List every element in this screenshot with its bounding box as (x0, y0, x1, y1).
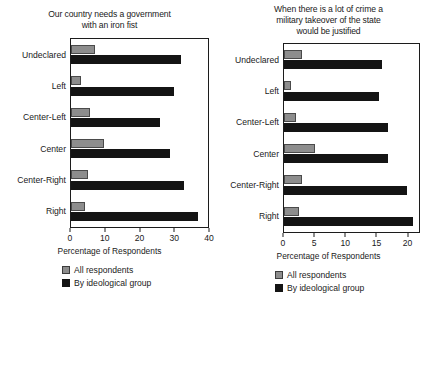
x-axis-tick (70, 228, 71, 232)
bar-ideological-group (284, 92, 379, 101)
bar-all-respondents (284, 144, 315, 153)
x-axis-tick-label: 15 (372, 238, 382, 248)
category-label-undeclared: Undeclared (235, 55, 279, 65)
category-label-left: Left (265, 86, 279, 96)
bar-all-respondents (284, 81, 291, 90)
chart-title-right-line3: would be justified (233, 26, 424, 37)
chart-panel-right: When there is a lot of crime a military … (219, 0, 438, 365)
bar-all-respondents (284, 175, 302, 184)
bar-row: Left (71, 70, 208, 101)
plot-wrapper-right: UndeclaredLeftCenter-LeftCenterCenter-Ri… (283, 43, 420, 250)
bar-rows-left: UndeclaredLeftCenter-LeftCenterCenter-Ri… (71, 39, 208, 227)
chart-title-left-line1: Our country needs a government (14, 9, 205, 20)
bar-row: Center-Right (71, 164, 208, 195)
legend-item-ideological-group-left: By ideological group (62, 278, 151, 288)
category-label-right: Right (46, 206, 66, 216)
x-axis-tick-label: 0 (281, 238, 286, 248)
legend-left: All respondents By ideological group (0, 265, 219, 288)
chart-title-right: When there is a lot of crime a military … (219, 4, 438, 37)
x-axis-tick-label: 5 (312, 238, 317, 248)
legend-item-ideological-group-right: By ideological group (275, 283, 364, 293)
chart-panel-left: Our country needs a government with an i… (0, 0, 219, 365)
plot-area-left: UndeclaredLeftCenter-LeftCenterCenter-Ri… (70, 38, 209, 228)
bar-all-respondents (71, 76, 81, 85)
legend-swatch-all-respondents-icon (275, 271, 283, 279)
x-axis-tick (104, 228, 105, 232)
bar-ideological-group (284, 60, 382, 69)
x-axis-tick-label: 20 (135, 233, 145, 243)
bar-ideological-group (284, 217, 413, 226)
bar-all-respondents (71, 139, 104, 148)
plot-wrapper-left: UndeclaredLeftCenter-LeftCenterCenter-Ri… (70, 38, 209, 245)
bar-ideological-group (71, 149, 170, 158)
legend-label-ideological-group: By ideological group (287, 283, 364, 293)
chart-figure: Our country needs a government with an i… (0, 0, 438, 365)
bar-row: Right (71, 196, 208, 227)
category-label-right: Right (259, 211, 279, 221)
bar-ideological-group (71, 55, 181, 64)
x-axis-tick-label: 0 (68, 233, 73, 243)
legend-item-all-respondents-right: All respondents (275, 270, 346, 280)
x-axis-tick-label: 10 (100, 233, 110, 243)
bar-ideological-group (71, 87, 174, 96)
x-axis-tick (283, 233, 284, 237)
bar-row: Center-Right (284, 169, 419, 200)
bar-all-respondents (71, 45, 95, 54)
bar-row: Center-Left (71, 102, 208, 133)
legend-right: All respondents By ideological group (219, 270, 438, 293)
x-axis-right: 05101520 (283, 233, 420, 250)
bar-row: Undeclared (284, 44, 419, 75)
bar-row: Right (284, 201, 419, 232)
chart-title-right-line1: When there is a lot of crime a (233, 4, 424, 15)
bar-row: Left (284, 75, 419, 106)
category-label-undeclared: Undeclared (22, 50, 66, 60)
bar-ideological-group (284, 186, 407, 195)
bar-all-respondents (71, 202, 85, 211)
bar-all-respondents (284, 50, 302, 59)
bar-all-respondents (284, 113, 296, 122)
category-label-left: Left (52, 81, 66, 91)
bar-row: Undeclared (71, 39, 208, 70)
bar-all-respondents (71, 170, 88, 179)
bar-ideological-group (71, 118, 160, 127)
bar-rows-right: UndeclaredLeftCenter-LeftCenterCenter-Ri… (284, 44, 419, 232)
x-axis-tick (174, 228, 175, 232)
category-label-center-left: Center-Left (236, 117, 279, 127)
legend-label-all-respondents: All respondents (287, 270, 346, 280)
x-axis-tick-label: 10 (340, 238, 350, 248)
legend-item-all-respondents-left: All respondents (62, 265, 133, 275)
bar-row: Center (71, 133, 208, 164)
category-label-center-left: Center-Left (23, 112, 66, 122)
bar-ideological-group (71, 212, 198, 221)
bar-ideological-group (71, 181, 184, 190)
x-axis-tick-label: 40 (204, 233, 214, 243)
x-axis-title-left: Percentage of Respondents (0, 246, 219, 256)
x-axis-tick (314, 233, 315, 237)
legend-label-ideological-group: By ideological group (74, 278, 151, 288)
legend-swatch-all-respondents-icon (62, 266, 70, 274)
plot-area-right: UndeclaredLeftCenter-LeftCenterCenter-Ri… (283, 43, 420, 233)
chart-title-left: Our country needs a government with an i… (0, 9, 219, 31)
chart-title-right-line2: military takeover of the state (233, 15, 424, 26)
legend-swatch-ideological-group-icon (275, 284, 283, 292)
x-axis-tick-label: 30 (169, 233, 179, 243)
legend-label-all-respondents: All respondents (74, 265, 133, 275)
bar-ideological-group (284, 123, 388, 132)
x-axis-tick (345, 233, 346, 237)
category-label-center: Center (40, 144, 66, 154)
category-label-center: Center (253, 149, 279, 159)
x-axis-tick (376, 233, 377, 237)
chart-title-left-line2: with an iron fist (14, 20, 205, 31)
bar-ideological-group (284, 154, 388, 163)
x-axis-left: 010203040 (70, 228, 209, 245)
bar-all-respondents (284, 207, 299, 216)
x-axis-title-right: Percentage of Respondents (219, 251, 438, 261)
category-label-center-right: Center-Right (17, 175, 66, 185)
bar-row: Center (284, 138, 419, 169)
x-axis-tick (209, 228, 210, 232)
bar-row: Center-Left (284, 107, 419, 138)
legend-swatch-ideological-group-icon (62, 279, 70, 287)
bar-all-respondents (71, 108, 90, 117)
x-axis-tick (139, 228, 140, 232)
category-label-center-right: Center-Right (230, 180, 279, 190)
